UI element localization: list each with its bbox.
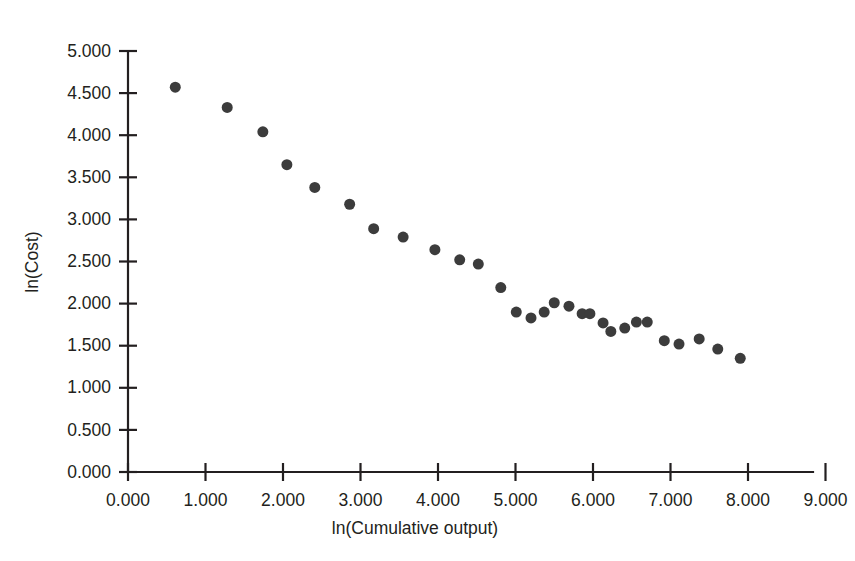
y-tick-label: 3.500 <box>67 167 111 187</box>
data-points <box>170 82 746 364</box>
data-point <box>598 317 609 328</box>
data-point <box>454 254 465 265</box>
scatter-plot: 0.0000.5001.0001.5002.0002.5003.0003.500… <box>0 0 855 561</box>
x-axis-title: ln(Cumulative output) <box>332 518 498 538</box>
x-tick-label: 8.000 <box>726 490 770 510</box>
data-point <box>526 312 537 323</box>
data-point <box>398 232 409 243</box>
data-point <box>473 259 484 270</box>
data-point <box>539 307 550 318</box>
data-point <box>495 282 506 293</box>
y-tick-label: 4.000 <box>67 125 111 145</box>
x-tick-label: 6.000 <box>571 490 615 510</box>
data-point <box>694 333 705 344</box>
data-point <box>429 244 440 255</box>
y-axis-ticks: 0.0000.5001.0001.5002.0002.5003.0003.500… <box>67 41 137 482</box>
data-point <box>674 339 685 350</box>
data-point <box>344 199 355 210</box>
x-tick-label: 0.000 <box>106 490 150 510</box>
y-tick-label: 0.500 <box>67 420 111 440</box>
y-tick-label: 1.500 <box>67 335 111 355</box>
y-tick-label: 2.000 <box>67 293 111 313</box>
data-point <box>309 182 320 193</box>
data-point <box>281 159 292 170</box>
x-tick-label: 5.000 <box>494 490 538 510</box>
y-axis-title: ln(Cost) <box>22 231 42 292</box>
data-point <box>563 301 574 312</box>
data-point <box>712 344 723 355</box>
data-point <box>511 307 522 318</box>
data-point <box>642 317 653 328</box>
data-point <box>659 335 670 346</box>
x-axis-ticks: 0.0001.0002.0003.0004.0005.0006.0007.000… <box>106 463 848 510</box>
x-tick-label: 4.000 <box>416 490 460 510</box>
data-point <box>549 297 560 308</box>
data-point <box>735 353 746 364</box>
y-tick-label: 3.000 <box>67 209 111 229</box>
chart-figure: 0.0000.5001.0001.5002.0002.5003.0003.500… <box>0 0 855 561</box>
x-tick-label: 1.000 <box>184 490 228 510</box>
data-point <box>605 326 616 337</box>
y-tick-label: 2.500 <box>67 251 111 271</box>
y-tick-label: 0.000 <box>67 462 111 482</box>
x-tick-label: 9.000 <box>804 490 848 510</box>
x-tick-label: 7.000 <box>649 490 693 510</box>
data-point <box>631 317 642 328</box>
y-tick-label: 5.000 <box>67 41 111 61</box>
y-tick-label: 4.500 <box>67 83 111 103</box>
data-point <box>368 223 379 234</box>
x-tick-label: 3.000 <box>339 490 383 510</box>
x-tick-label: 2.000 <box>261 490 305 510</box>
data-point <box>619 323 630 334</box>
data-point <box>222 102 233 113</box>
axes <box>128 51 813 472</box>
y-tick-label: 1.000 <box>67 377 111 397</box>
data-point <box>584 308 595 319</box>
data-point <box>257 126 268 137</box>
data-point <box>170 82 181 93</box>
